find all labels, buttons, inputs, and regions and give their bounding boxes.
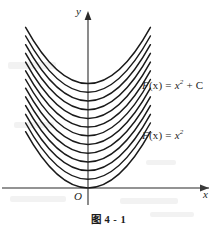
annotation-curve-family: F(x) = x2 + C — [142, 79, 203, 91]
annotation-family-arg: (x) — [149, 79, 162, 91]
y-axis-label: y — [76, 5, 81, 17]
annotation-base-prefix: F — [142, 129, 149, 141]
annotation-base-exp: 2 — [180, 128, 184, 136]
figure-caption: 图 4 - 1 — [0, 211, 217, 226]
annotation-base-eq: = — [162, 129, 174, 141]
annotation-curve-base: F(x) = x2 — [142, 129, 183, 141]
annotation-family-prefix: F — [142, 79, 149, 91]
figure-container: F(x) = x2 + C F(x) = x2 y x O 图 4 - 1 — [0, 0, 217, 230]
annotation-family-eq: = — [162, 79, 174, 91]
parabola-family-plot — [0, 0, 217, 230]
x-axis-label: x — [203, 188, 208, 200]
y-axis-arrowhead — [85, 11, 92, 20]
annotation-family-suffix: + C — [183, 79, 203, 91]
annotation-base-arg: (x) — [149, 129, 162, 141]
origin-label: O — [74, 190, 82, 202]
